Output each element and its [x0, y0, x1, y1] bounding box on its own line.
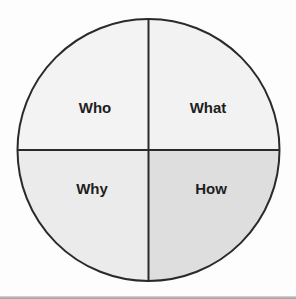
label-who: Who — [79, 99, 111, 116]
quadrant-circle: Who What Why How — [0, 0, 296, 299]
quadrant-what — [149, 19, 280, 150]
quadrant-how — [149, 150, 280, 281]
label-what: What — [190, 99, 227, 116]
quadrant-who — [18, 19, 149, 150]
quadrant-why — [18, 150, 149, 281]
quadrant-diagram: Who What Why How — [0, 0, 296, 299]
label-how: How — [195, 180, 227, 197]
label-why: Why — [76, 180, 108, 197]
